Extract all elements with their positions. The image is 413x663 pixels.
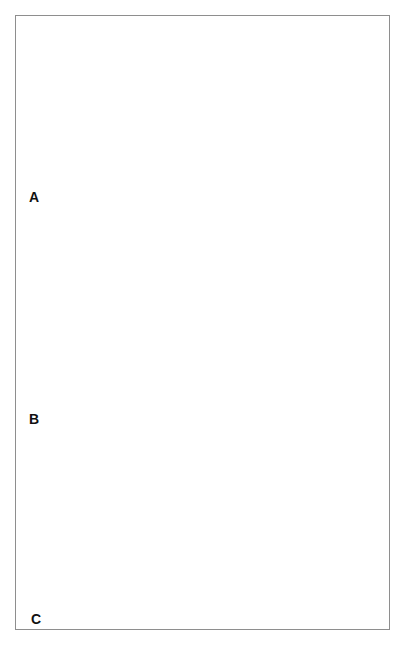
figure-border-frame — [15, 15, 390, 630]
panel-label-c: C — [31, 612, 42, 626]
panel-label-a: A — [29, 190, 40, 204]
panel-label-b: B — [29, 412, 40, 426]
